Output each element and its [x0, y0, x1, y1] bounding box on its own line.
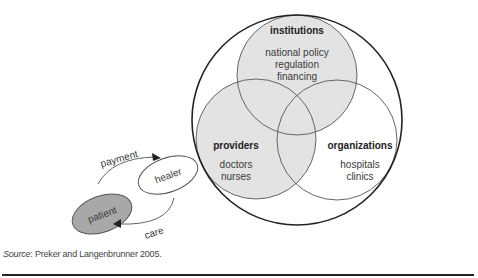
source-text: : Preker and Langenbrunner 2005. — [30, 249, 161, 259]
organizations-line-1: hospitals — [340, 159, 379, 170]
payment-label: payment — [99, 148, 139, 169]
organizations-title: organizations — [327, 140, 392, 151]
institutions-line-3: financing — [277, 71, 317, 82]
providers-line-2: nurses — [221, 171, 251, 182]
bottom-rule — [2, 274, 474, 276]
providers-circle-fill — [196, 79, 316, 199]
source-label: Source — [3, 249, 30, 259]
source-note: Source: Preker and Langenbrunner 2005. — [3, 249, 162, 259]
organizations-line-2: clinics — [346, 171, 373, 182]
care-label: care — [143, 224, 165, 241]
institutions-line-2: regulation — [275, 59, 319, 70]
institutions-line-1: national policy — [265, 47, 328, 58]
providers-title: providers — [213, 140, 259, 151]
institutions-title: institutions — [270, 25, 324, 36]
providers-line-1: doctors — [220, 159, 253, 170]
health-system-diagram: institutions national policy regulation … — [0, 0, 478, 278]
